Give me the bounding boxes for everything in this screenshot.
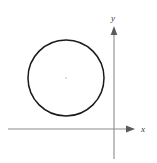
y-axis-arrow-icon bbox=[111, 26, 118, 35]
x-axis-arrow-icon bbox=[126, 126, 135, 133]
figure-canvas: x y bbox=[0, 0, 157, 163]
y-axis-label: y bbox=[110, 13, 115, 23]
x-axis-label: x bbox=[140, 124, 145, 134]
circle-axes-diagram: x y bbox=[0, 0, 157, 163]
circle-center-mark bbox=[65, 77, 67, 79]
